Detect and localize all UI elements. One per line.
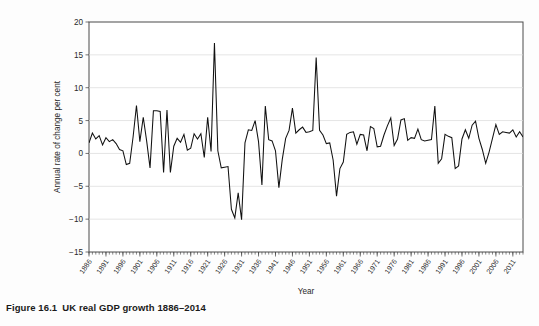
x-tick-label-1996: 1996 bbox=[450, 257, 467, 275]
x-tick-label-2011: 2011 bbox=[501, 257, 517, 275]
y-tick-label--15: −15 bbox=[69, 248, 83, 257]
x-tick-label-1986: 1986 bbox=[416, 257, 433, 275]
x-tick-label-1966: 1966 bbox=[349, 257, 366, 275]
x-tick-label-1921: 1921 bbox=[196, 257, 213, 275]
x-tick-label-1971: 1971 bbox=[365, 257, 382, 275]
figure-container: −15−10−505101520 18861891189619011906191… bbox=[0, 0, 539, 326]
x-tick-label-1896: 1896 bbox=[111, 257, 128, 275]
x-tick-label-1951: 1951 bbox=[298, 257, 315, 275]
y-axis-title: Annual rate of change per cent bbox=[53, 80, 62, 193]
y-tick-label-10: 10 bbox=[74, 84, 84, 93]
x-tick-label-1991: 1991 bbox=[433, 257, 450, 275]
y-axis: −15−10−505101520 bbox=[69, 18, 89, 257]
x-tick-label-1941: 1941 bbox=[264, 257, 281, 275]
x-tick-label-1956: 1956 bbox=[315, 257, 332, 275]
x-axis: 1886189118961901190619111916192119261931… bbox=[77, 252, 517, 276]
x-tick-label-1916: 1916 bbox=[179, 257, 196, 275]
y-tick-label--10: −10 bbox=[69, 215, 83, 224]
y-tick-label-5: 5 bbox=[78, 117, 83, 126]
y-tick-label-0: 0 bbox=[78, 149, 83, 158]
plot-area-frame bbox=[89, 22, 523, 252]
x-axis-title: Year bbox=[298, 287, 315, 296]
x-tick-label-1901: 1901 bbox=[128, 257, 145, 275]
x-tick-label-1946: 1946 bbox=[281, 257, 298, 275]
y-tick-label-15: 15 bbox=[74, 51, 84, 60]
y-tick-label--5: −5 bbox=[74, 182, 84, 191]
x-tick-label-1931: 1931 bbox=[230, 257, 247, 275]
gdp-growth-line-chart: −15−10−505101520 18861891189619011906191… bbox=[0, 0, 539, 326]
x-tick-label-1926: 1926 bbox=[213, 257, 230, 275]
x-tick-label-1936: 1936 bbox=[247, 257, 264, 275]
figure-title: UK real GDP growth 1886–2014 bbox=[62, 302, 206, 313]
figure-caption: Figure 16.1UK real GDP growth 1886–2014 bbox=[6, 302, 206, 313]
x-tick-label-2006: 2006 bbox=[484, 257, 501, 275]
x-tick-label-1906: 1906 bbox=[145, 257, 162, 275]
x-tick-label-1976: 1976 bbox=[382, 257, 399, 275]
x-tick-label-1911: 1911 bbox=[162, 257, 178, 275]
x-tick-label-1891: 1891 bbox=[94, 257, 111, 275]
figure-number: Figure 16.1 bbox=[6, 302, 57, 313]
x-tick-label-2001: 2001 bbox=[467, 257, 484, 275]
x-tick-label-1961: 1961 bbox=[332, 257, 349, 275]
y-tick-label-20: 20 bbox=[74, 18, 84, 27]
x-tick-label-1981: 1981 bbox=[399, 257, 416, 275]
x-tick-label-1886: 1886 bbox=[77, 257, 94, 275]
